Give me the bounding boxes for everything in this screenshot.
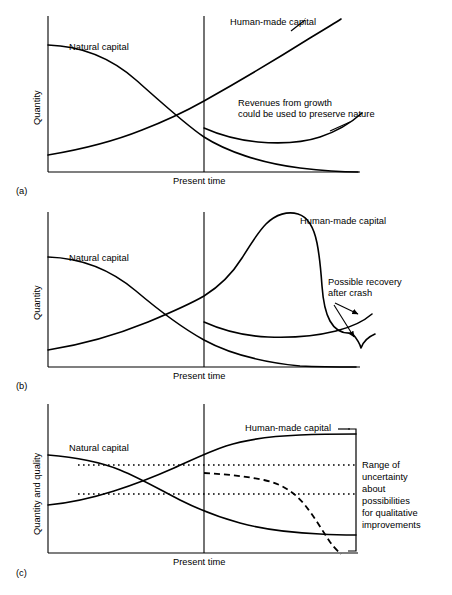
panel-c-label-natural-capital: Natural capital [69, 443, 129, 454]
panel-b-plot [48, 212, 375, 367]
panel-a-leader-revenues [330, 122, 350, 131]
panel-a-y-axis-label: Quantity [32, 90, 42, 125]
panel-a-curve-human-made-capital [48, 19, 341, 155]
panel-c-label-range-line3: about [362, 484, 385, 495]
panel-b-x-axis-label: Present time [173, 371, 225, 382]
panel-b-letter: (b) [16, 381, 27, 391]
panel-c-letter: (c) [16, 568, 27, 578]
panel-c-uncertainty-bracket [348, 429, 356, 551]
panel-a-plot [48, 16, 362, 172]
panel-c-label-range-line2: uncertainty [362, 472, 408, 483]
figure-root: Quantity Natural capital Human-made capi… [0, 0, 452, 595]
panel-a-label-human-made-capital: Human-made capital [230, 17, 316, 28]
panel-c-label-range-line5: for qualitative [362, 508, 418, 519]
panel-b-label-recovery-line1: Possible recovery [328, 277, 402, 288]
panel-c-label-human-made-capital: Human-made capital [245, 423, 331, 434]
panel-b-y-axis-label: Quantity [32, 285, 42, 320]
panel-c-label-range-line1: Range of [362, 460, 400, 471]
panel-b-label-human-made-capital: Human-made capital [300, 216, 386, 227]
panel-c-y-axis-label: Quantity and quality [32, 453, 42, 535]
panel-c-x-axis-label: Present time [173, 557, 225, 568]
panel-a-label-natural-capital: Natural capital [69, 42, 129, 53]
panel-a-label-revenues-line1: Revenues from growth [238, 98, 332, 109]
panel-b-curve-natural-capital [48, 257, 356, 367]
panel-b-label-natural-capital: Natural capital [69, 253, 129, 264]
panel-b-label-recovery-line2: after crash [328, 288, 372, 299]
panel-c-curve-natural-capital [48, 455, 356, 535]
panel-a-label-revenues-line2: could be used to preserve nature [238, 109, 375, 120]
panel-b-curve-human-made-capital [48, 213, 352, 350]
panel-c-label-range-line4: possibilities [362, 496, 410, 507]
panel-c-qualitative-improvement-path [204, 473, 341, 554]
panel-b-curve-recovery-lower [352, 333, 375, 348]
panel-a-letter: (a) [16, 186, 27, 196]
panel-c-label-range-line6: improvements [362, 520, 421, 531]
panel-a-x-axis-label: Present time [173, 176, 225, 187]
